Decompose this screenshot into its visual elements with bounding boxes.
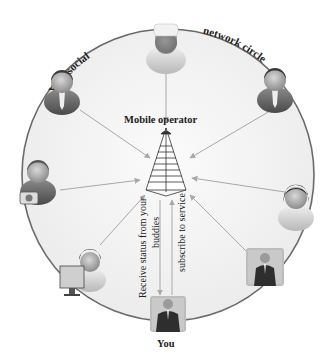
center-label: Mobile operator: [124, 114, 197, 125]
businessman-photo-icon: [246, 248, 284, 286]
arrow-label-receive: Receive status from your: [137, 198, 148, 298]
social-network-diagram: Your social network circle: [0, 0, 332, 360]
you-label: You: [157, 338, 175, 349]
diagram-canvas: Your social network circle: [0, 0, 332, 360]
arrow-label-subscribe: subscribe to service: [176, 193, 187, 272]
you-photo-icon: [150, 296, 186, 332]
arrow-label-buddies: buddies: [150, 217, 161, 248]
